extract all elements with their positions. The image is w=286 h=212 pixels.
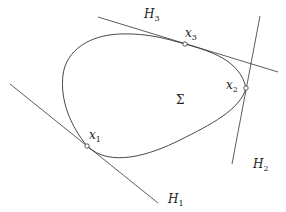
label-sigma: Σ xyxy=(176,93,184,107)
label-x3: x3 xyxy=(185,26,197,42)
point-x1 xyxy=(85,144,89,148)
label-h3: H3 xyxy=(143,7,160,23)
line-h1 xyxy=(10,84,158,203)
label-h1: H1 xyxy=(167,192,184,208)
label-x1: x1 xyxy=(89,128,101,144)
label-h2: H2 xyxy=(252,157,269,173)
supporting-hyperplanes-diagram: x1 x2 x3 H1 H2 H3 Σ xyxy=(0,0,286,212)
point-x2 xyxy=(244,86,248,90)
label-x2: x2 xyxy=(226,78,238,94)
point-x3 xyxy=(183,42,187,46)
